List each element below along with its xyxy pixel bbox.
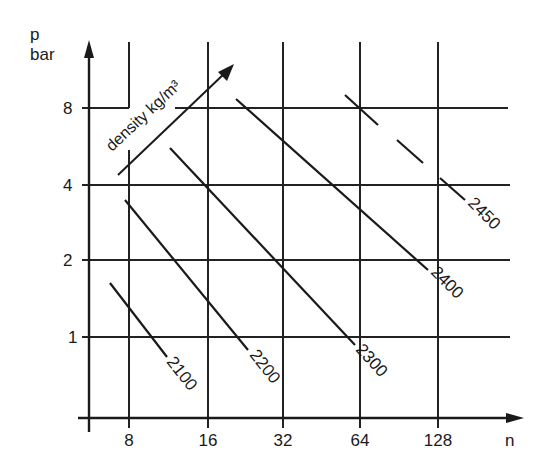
x-axis-arrowhead (506, 413, 524, 423)
series-2450-dash-1 (345, 95, 378, 125)
series-2450-dash-2 (397, 140, 423, 163)
y-tick-2: 2 (63, 251, 72, 270)
series-2300 (170, 148, 355, 345)
density-chart: p bar 8 4 2 1 8 16 32 64 128 n density k… (0, 0, 538, 475)
y-tick-4: 4 (63, 176, 72, 195)
series-2450-dash-3 (440, 178, 465, 200)
axes (78, 40, 524, 432)
series-label-2200: 2200 (246, 346, 284, 388)
y-tick-8: 8 (63, 99, 72, 118)
y-tick-1: 1 (68, 328, 77, 347)
series-label-2450: 2450 (464, 193, 504, 233)
series-label-2400: 2400 (427, 262, 467, 302)
density-lines (110, 95, 465, 357)
x-tick-64: 64 (351, 431, 370, 450)
y-axis-arrowhead (84, 40, 94, 58)
x-axis-label: n (505, 431, 514, 450)
x-tick-32: 32 (274, 431, 293, 450)
x-tick-16: 16 (199, 431, 218, 450)
x-tick-128: 128 (424, 431, 452, 450)
density-annotation: density kg/m³ (102, 64, 234, 175)
density-label: density kg/m³ (102, 76, 184, 154)
x-tick-8: 8 (124, 431, 133, 450)
series-label-2100: 2100 (163, 353, 201, 395)
y-axis-label-line1: p (30, 25, 39, 44)
series-2100 (110, 283, 167, 357)
y-axis-label-line2: bar (30, 45, 55, 64)
series-label-2300: 2300 (352, 340, 391, 381)
